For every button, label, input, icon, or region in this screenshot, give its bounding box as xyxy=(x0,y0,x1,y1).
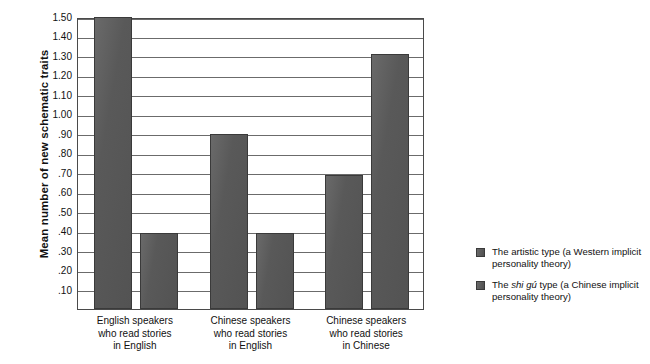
bar-artistic-group3 xyxy=(325,175,363,309)
y-tick-label: .70 xyxy=(36,169,72,179)
category-label-line: in Chinese xyxy=(308,340,424,353)
legend-label-shigu: The shi gú type (a Chinese implicit pers… xyxy=(492,279,639,304)
y-tick-label: .50 xyxy=(36,208,72,218)
y-tick-label: 1.50 xyxy=(36,13,72,23)
bar-artistic-group1 xyxy=(94,17,132,309)
category-label-2: Chinese speakerswho read storiesin Engli… xyxy=(193,315,309,353)
bar-shigu-group3 xyxy=(371,54,409,309)
bar-shigu-group1 xyxy=(140,233,178,309)
y-tick-label: 1.00 xyxy=(36,110,72,120)
category-label-line: in English xyxy=(193,340,309,353)
category-label-3: Chinese speakerswho read storiesin Chine… xyxy=(308,315,424,353)
y-tick-label: .30 xyxy=(36,247,72,257)
plot-area xyxy=(77,18,424,310)
category-label-line: who read stories xyxy=(308,328,424,341)
y-tick-label: .60 xyxy=(36,188,72,198)
bar-artistic-group2 xyxy=(210,134,248,309)
legend-item-artistic: The artistic type (a Western implicit pe… xyxy=(476,246,644,271)
category-label-line: who read stories xyxy=(193,328,309,341)
y-tick-label: 1.30 xyxy=(36,52,72,62)
y-tick-label: 1.20 xyxy=(36,71,72,81)
chart-container: Mean number of new schematic traits .10.… xyxy=(0,0,650,364)
y-tick-label: .80 xyxy=(36,149,72,159)
category-label-line: Chinese speakers xyxy=(193,315,309,328)
y-tick-label: 1.10 xyxy=(36,91,72,101)
legend: The artistic type (a Western implicit pe… xyxy=(476,246,644,312)
legend-swatch-icon xyxy=(476,281,485,290)
y-tick-label: .10 xyxy=(36,286,72,296)
category-label-line: English speakers xyxy=(77,315,193,328)
legend-item-shigu: The shi gú type (a Chinese implicit pers… xyxy=(476,279,644,304)
legend-label-artistic: The artistic type (a Western implicit pe… xyxy=(492,246,641,271)
legend-swatch-icon xyxy=(476,248,485,257)
y-tick-label: .20 xyxy=(36,266,72,276)
bar-shigu-group2 xyxy=(256,233,294,309)
y-tick-label: .40 xyxy=(36,227,72,237)
category-label-1: English speakerswho read storiesin Engli… xyxy=(77,315,193,353)
category-label-line: who read stories xyxy=(77,328,193,341)
category-label-line: in English xyxy=(77,340,193,353)
y-tick-label: 1.40 xyxy=(36,32,72,42)
y-tick-label: .90 xyxy=(36,130,72,140)
category-label-line: Chinese speakers xyxy=(308,315,424,328)
